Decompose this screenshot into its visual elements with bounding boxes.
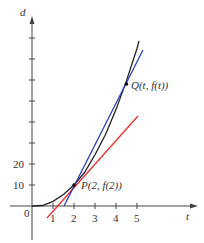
point-P-label: P(2, f(2)) <box>80 179 122 192</box>
x-tick-label-4: 4 <box>113 212 119 224</box>
y-tick-label-20: 20 <box>13 158 25 170</box>
y-axis-arrow <box>30 16 35 24</box>
point-Q <box>125 82 129 86</box>
x-tick-label-2: 2 <box>71 212 77 224</box>
y-tick-label-10: 10 <box>13 179 25 191</box>
x-axis-label: t <box>186 210 190 222</box>
x-tick-label-1: 1 <box>50 212 56 224</box>
x-tick-label-5: 5 <box>134 212 140 224</box>
x-axis-arrow <box>190 204 198 209</box>
chart: d t 0 1 2 3 4 5 10 20 P(2, f(2)) Q(t, f(… <box>0 0 204 243</box>
point-Q-label: Q(t, f(t)) <box>131 79 169 92</box>
x-tick-label-3: 3 <box>92 212 98 224</box>
point-P <box>72 183 76 187</box>
y-axis-label: d <box>20 6 26 18</box>
tangent-line <box>47 116 138 218</box>
origin-label: 0 <box>24 207 30 219</box>
